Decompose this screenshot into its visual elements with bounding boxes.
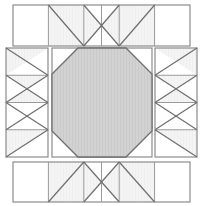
- quilt-block-diagram: [0, 0, 201, 206]
- center-octagon: [52, 48, 152, 157]
- center-block: [52, 48, 152, 157]
- block-diagram-canvas: [0, 0, 201, 206]
